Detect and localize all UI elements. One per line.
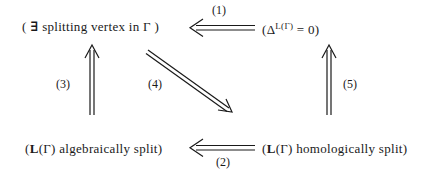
implication-arrow-1 — [190, 19, 255, 37]
arrow-label-3: (3) — [56, 77, 70, 92]
arrow-label-1: (1) — [212, 3, 226, 18]
node-delta-zero: (ΔL(Γ) = 0) — [262, 21, 319, 38]
implication-arrow-2 — [190, 139, 255, 157]
implication-arrow-3 — [85, 45, 99, 115]
arrow-label-2: (2) — [216, 155, 230, 170]
node-algebraically-split: (L(Γ) algebraically split) — [25, 141, 162, 157]
arrow-label-5: (5) — [343, 77, 357, 92]
node-homologically-split: (L(Γ) homologically split) — [262, 141, 407, 157]
node-splitting-vertex: ( ∃ splitting vertex in Γ ) — [22, 19, 159, 35]
arrow-label-4: (4) — [148, 77, 162, 92]
implication-arrow-5 — [322, 45, 336, 115]
exists-symbol: ∃ — [30, 19, 38, 34]
